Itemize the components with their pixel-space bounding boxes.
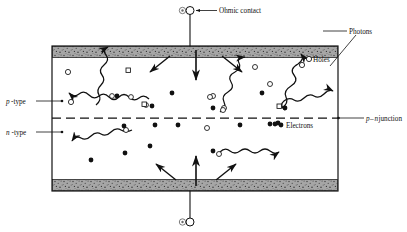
bottom-terminal-dot [181,221,183,223]
led-cross-section-diagram: Ohmic contact Photons Holes Electrons p … [0,0,407,232]
electron-marker [283,106,288,111]
bottom-terminal-group [179,191,194,226]
pn-junction-label-word: junction [378,115,403,123]
ohmic-contact-label: Ohmic contact [219,7,261,15]
top-terminal-circle [186,7,194,15]
hole-marker [299,62,304,67]
holes-label: Holes [313,56,330,64]
pn-junction-label-dash: – [369,115,374,123]
pn-junction-leader-dot [337,117,340,120]
electron-marker [260,91,265,96]
top-ohmic-contact-band [53,47,338,58]
top-terminal-dot [181,9,183,11]
hole-marker [68,99,73,104]
bottom-ohmic-contact-band [53,179,338,190]
hole-marker [268,82,273,87]
electron-marker [211,149,216,154]
hole-marker [110,94,115,99]
bottom-terminal-circle [186,218,194,226]
n-type-label-rest: -type [12,129,27,137]
top-terminal-group [179,7,194,47]
electron-marker [273,122,278,127]
hole-marker [129,95,134,100]
hole-marker [217,152,222,157]
hole-legend-marker [306,56,311,61]
hole-marker [221,108,226,113]
electron-marker [170,91,175,96]
n-type-leader-dot [61,131,64,134]
hole-marker [253,65,258,70]
hole-marker [142,102,146,106]
hole-marker [126,68,130,72]
hole-marker [277,104,281,108]
electron-marker [268,122,273,127]
electron-marker [150,104,155,109]
electron-marker [211,106,216,111]
hole-marker [205,126,210,131]
electron-legend-marker [279,123,284,128]
electron-marker [89,158,94,163]
electron-marker [176,123,181,128]
n-type-label-italic: n [6,129,10,137]
electron-marker [115,94,120,99]
electron-marker [238,123,243,128]
hole-marker [65,69,70,74]
figure-canvas: Ohmic contact Photons Holes Electrons p … [0,0,407,232]
electron-marker [122,124,127,129]
p-type-label-rest: -type [11,98,26,106]
p-type-leader-dot [61,100,64,103]
electron-marker [148,144,153,149]
electrons-label: Electrons [286,122,313,130]
electron-marker [123,151,128,156]
p-type-label-italic: p [5,98,10,106]
electron-marker [153,123,158,128]
hole-marker [208,95,213,100]
photons-label: Photons [349,28,372,36]
